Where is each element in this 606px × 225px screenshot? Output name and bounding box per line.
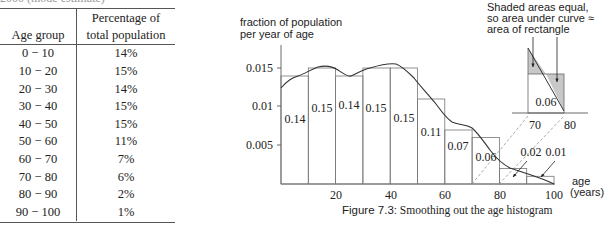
inset-note-line3: area of rectangle [487,23,570,35]
x-axis-label-line2: (years) [570,186,604,198]
bar-label-9: 0.01 [546,145,567,159]
arrow-0-02 [513,161,527,177]
bar-50-60 [418,99,445,184]
bar-90-100 [527,176,554,184]
y-tick-labels: 0.015 0.01 0.005 [246,61,273,152]
small-bar-arrows [513,161,555,177]
bar-10-20 [308,68,335,184]
bar-value-labels: 0.14 0.15 0.14 0.15 0.15 0.11 0.07 0.06 … [285,98,567,164]
inset-bar-label: 0.06 [536,95,557,109]
x-tick-60: 60 [439,188,451,202]
x-tick-100: 100 [545,188,563,202]
histogram-chart: fraction of population per year of age 0… [0,0,606,225]
bar-40-50 [390,68,417,184]
inset-magnifier: Shaded areas equal, so area under curve … [487,1,594,132]
bar-label-4: 0.15 [394,111,415,125]
bar-label-5: 0.11 [421,125,442,139]
bar-label-0: 0.14 [285,112,306,126]
caption-text: Smoothing out the age histogram [400,204,553,216]
arrow-0-01 [541,161,555,177]
figure-caption: Figure 7.3: Smoothing out the age histog… [342,204,553,216]
x-tick-80: 80 [494,188,506,202]
y-axis-label-line2: per year of age [240,28,314,40]
bar-0-10 [281,76,308,184]
bar-label-1: 0.15 [312,101,333,115]
x-tick-labels: 20 40 60 80 100 [330,188,563,202]
bar-label-8: 0.02 [521,145,542,159]
y-tick-0005: 0.005 [246,138,273,152]
inset-x-tick-80: 80 [564,118,576,132]
bar-20-30 [336,76,363,184]
x-tick-20: 20 [330,188,342,202]
histogram-bars [281,68,554,184]
bar-label-7: 0.06 [476,150,497,164]
inset-x-tick-70: 70 [529,118,541,132]
bar-label-6: 0.07 [448,139,469,153]
y-axis-label-line1: fraction of population [240,16,342,28]
bar-label-2: 0.14 [339,98,360,112]
x-tick-40: 40 [385,188,397,202]
caption-label: Figure 7.3: [342,204,397,216]
bar-80-90 [499,169,526,185]
y-tick-0015: 0.015 [246,61,273,75]
bar-label-3: 0.15 [366,101,387,115]
bar-30-40 [363,68,390,184]
y-tick-001: 0.01 [252,99,273,113]
